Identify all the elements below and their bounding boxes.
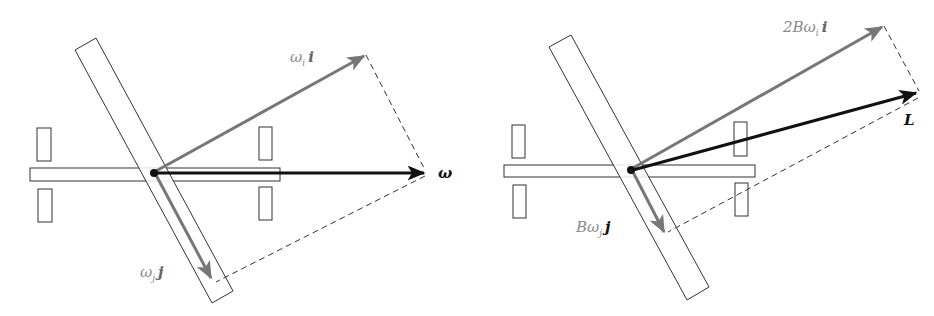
blade-lower-right xyxy=(735,183,748,216)
L-vector-arrow xyxy=(633,93,916,170)
figure: ωii ωjj ω 2Bωii Bωjj L xyxy=(0,0,934,316)
label-omega-j-j: ωjj xyxy=(140,263,164,283)
dashed-line-top xyxy=(884,26,919,91)
dashed-line-bottom xyxy=(216,176,425,282)
blade-upper-left xyxy=(37,128,51,161)
blade-lower-right xyxy=(259,187,272,220)
label-L: L xyxy=(903,111,915,129)
label-b-omega-j-j: Bωjj xyxy=(575,218,611,238)
blade-lower-left xyxy=(513,185,526,218)
omega-j-vector-arrow xyxy=(156,175,211,278)
blade-upper-right xyxy=(259,127,272,160)
label-omega: ω xyxy=(438,164,452,182)
left-panel: ωii ωjj ω xyxy=(30,38,452,303)
pivot-point xyxy=(627,166,635,174)
dashed-line-top xyxy=(366,55,425,170)
two-b-omega-i-vector-arrow xyxy=(633,27,882,168)
blade-lower-left xyxy=(38,189,52,222)
label-omega-i-i: ωii xyxy=(290,48,314,68)
label-2b-omega-i-i: 2Bωii xyxy=(782,18,828,38)
right-panel: 2Bωii Bωjj L xyxy=(504,18,919,300)
blade-upper-left xyxy=(512,125,525,158)
pivot-point xyxy=(150,169,158,177)
